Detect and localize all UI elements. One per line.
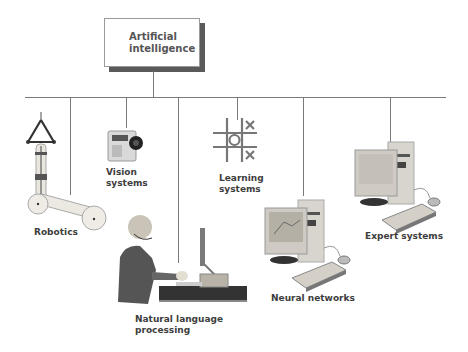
label-nlp: Natural language processing (135, 314, 223, 336)
root-connector (153, 71, 154, 98)
connector-expert (390, 98, 391, 142)
label-expert: Expert systems (365, 231, 443, 242)
root-node-box: Artificial intelligence (104, 18, 200, 67)
desktop-computer-icon (262, 198, 357, 293)
connector-neural (303, 98, 304, 196)
label-robotics: Robotics (34, 227, 78, 238)
label-neural: Neural networks (271, 293, 355, 304)
root-label-line2: intelligence (129, 43, 199, 55)
person-at-computer-icon (112, 212, 242, 308)
label-learning: Learning systems (219, 173, 264, 195)
root-label-line1: Artificial (129, 31, 199, 43)
label-vision: Vision systems (106, 167, 148, 189)
desktop-computer-icon (352, 140, 447, 235)
tic-tac-toe-icon (213, 118, 263, 168)
robotic-arm-icon (18, 112, 113, 227)
camera-icon (106, 125, 146, 165)
connector-learning (237, 98, 238, 120)
root-node-label: Artificial intelligence (129, 31, 199, 55)
connector-vision (126, 98, 127, 128)
bus-line (25, 97, 446, 98)
